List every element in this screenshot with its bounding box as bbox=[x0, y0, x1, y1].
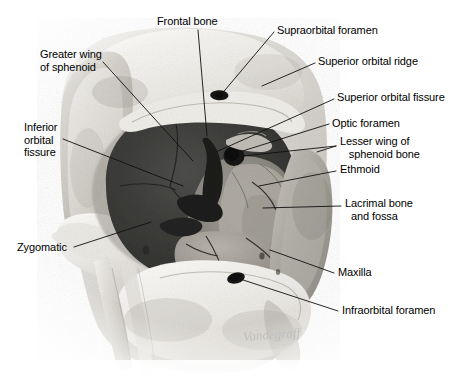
label-frontal-bone: Frontal bone bbox=[157, 15, 218, 28]
label-inferior-orbital-fissure: Inferior orbital fissure bbox=[24, 121, 57, 159]
label-infraorbital-foramen: Infraorbital foramen bbox=[342, 304, 435, 317]
label-optic-foramen: Optic foramen bbox=[332, 117, 400, 130]
label-supraorbital-foramen: Supraorbital foramen bbox=[277, 24, 378, 37]
label-zygomatic: Zygomatic bbox=[17, 241, 67, 254]
anatomy-figure: Vandegraff Frontal bone Supraorbital for… bbox=[0, 0, 459, 379]
label-maxilla: Maxilla bbox=[338, 266, 372, 279]
label-lacrimal-bone-and-fossa: Lacrimal bone and fossa bbox=[345, 197, 413, 222]
label-greater-wing-of-sphenoid: Greater wing of sphenoid bbox=[40, 48, 102, 73]
label-ethmoid: Ethmoid bbox=[340, 163, 380, 176]
label-superior-orbital-fissure: Superior orbital fissure bbox=[337, 91, 445, 104]
label-superior-orbital-ridge: Superior orbital ridge bbox=[318, 55, 418, 68]
label-lesser-wing-of-sphenoid-bone: Lesser wing of sphenoid bone bbox=[340, 135, 420, 160]
